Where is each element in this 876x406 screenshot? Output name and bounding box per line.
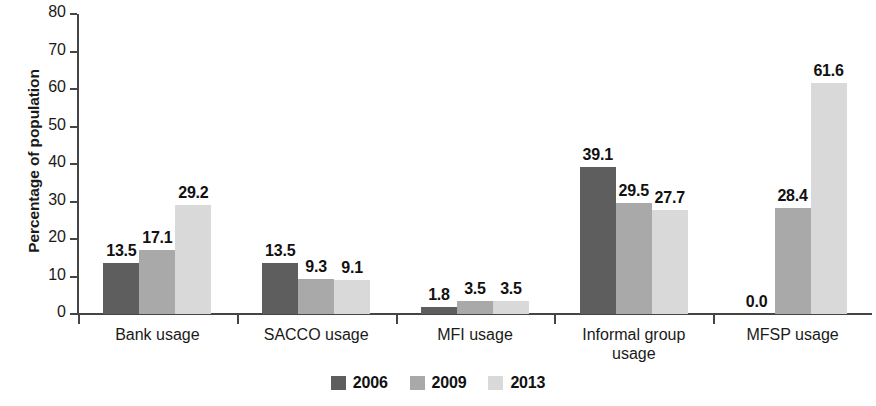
- bar-value-label: 28.4: [777, 187, 807, 205]
- bar-2013[interactable]: 3.5: [493, 14, 529, 314]
- bar-rect: [421, 307, 457, 314]
- y-axis-tick-label: 60: [26, 78, 66, 96]
- bar-group: 13.59.39.1: [237, 14, 396, 314]
- y-axis-tick-mark: [70, 163, 77, 165]
- bar-rect: [262, 263, 298, 314]
- bar-rect: [652, 210, 688, 314]
- bar-rect: [775, 208, 811, 315]
- y-axis-tick-mark: [70, 201, 77, 203]
- bar-rect: [493, 301, 529, 314]
- y-axis-tick-mark: [70, 88, 77, 90]
- x-axis-separator-tick: [554, 315, 556, 324]
- bar-value-label: 17.1: [142, 229, 172, 247]
- x-axis-separator-tick: [237, 315, 239, 324]
- bar-2013[interactable]: 29.2: [175, 14, 211, 314]
- bar-group: 0.028.461.6: [713, 14, 872, 314]
- bar-value-label: 0.0: [746, 293, 768, 311]
- x-axis-separator-tick: [78, 315, 80, 324]
- bar-2009[interactable]: 28.4: [775, 14, 811, 314]
- y-axis-tick-label: 0: [26, 303, 66, 321]
- bar-rect: [298, 279, 334, 314]
- y-axis-tick-label: 10: [26, 266, 66, 284]
- x-axis-category-label: Bank usage: [78, 325, 237, 344]
- bar-value-label: 39.1: [583, 146, 613, 164]
- legend-label: 2009: [432, 374, 467, 392]
- bar-group-bars: 1.83.53.5: [396, 14, 555, 314]
- bar-value-label: 29.2: [178, 184, 208, 202]
- bar-2013[interactable]: 61.6: [811, 14, 847, 314]
- bar-2013[interactable]: 9.1: [334, 14, 370, 314]
- y-axis-tick-mark: [70, 238, 77, 240]
- x-axis-category-label-line: usage: [554, 344, 713, 363]
- x-axis-separator-tick: [396, 315, 398, 324]
- x-axis-category-label-line: MFI usage: [396, 325, 555, 344]
- bar-2006[interactable]: 39.1: [580, 14, 616, 314]
- bar-2006[interactable]: 13.5: [262, 14, 298, 314]
- y-axis-tick-mark: [70, 13, 77, 15]
- legend-swatch-icon: [331, 376, 346, 390]
- bar-rect: [811, 83, 847, 314]
- y-axis-tick-mark: [70, 51, 77, 53]
- bar-rect: [139, 250, 175, 314]
- legend-swatch-icon: [410, 376, 425, 390]
- y-axis-tick-labels: 01020304050607080: [0, 0, 66, 406]
- bar-group-bars: 39.129.527.7: [554, 14, 713, 314]
- bar-2006[interactable]: 1.8: [421, 14, 457, 314]
- bar-value-label: 27.7: [655, 189, 685, 207]
- y-axis-tick-label: 40: [26, 153, 66, 171]
- y-axis-tick-label: 70: [26, 41, 66, 59]
- bar-2009[interactable]: 29.5: [616, 14, 652, 314]
- x-axis-category-label-line: MFSP usage: [713, 325, 872, 344]
- bar-group-bars: 13.517.129.2: [78, 14, 237, 314]
- bar-value-label: 3.5: [500, 280, 522, 298]
- y-axis-tick-label: 20: [26, 228, 66, 246]
- legend-label: 2006: [353, 374, 388, 392]
- bar-value-label: 29.5: [619, 182, 649, 200]
- x-axis-category-label: Informal groupusage: [554, 325, 713, 363]
- bar-2006[interactable]: 13.5: [103, 14, 139, 314]
- legend-label: 2013: [510, 374, 545, 392]
- bar-rect: [175, 205, 211, 315]
- bar-value-label: 9.1: [341, 259, 363, 277]
- bar-rect: [580, 167, 616, 314]
- y-axis-tick-label: 30: [26, 191, 66, 209]
- y-axis-tick-label: 50: [26, 116, 66, 134]
- y-axis-tick-mark: [70, 126, 77, 128]
- bar-2009[interactable]: 17.1: [139, 14, 175, 314]
- bar-chart: Percentage of population 010203040506070…: [0, 0, 876, 406]
- x-axis-category-label: SACCO usage: [237, 325, 396, 344]
- bar-value-label: 3.5: [464, 280, 486, 298]
- bar-rect: [616, 203, 652, 314]
- bar-rect: [457, 301, 493, 314]
- bar-group-bars: 13.59.39.1: [237, 14, 396, 314]
- chart-legend: 200620092013: [0, 374, 876, 392]
- x-axis-category-label-line: Informal group: [554, 325, 713, 344]
- bar-2006[interactable]: 0.0: [739, 14, 775, 314]
- x-axis-category-label-line: Bank usage: [78, 325, 237, 344]
- y-axis-tick-mark: [70, 313, 77, 315]
- bar-group-bars: 0.028.461.6: [713, 14, 872, 314]
- y-axis-tick-mark: [70, 276, 77, 278]
- legend-item-2006[interactable]: 2006: [331, 374, 388, 392]
- x-axis-category-label-line: SACCO usage: [237, 325, 396, 344]
- bar-value-label: 61.6: [813, 62, 843, 80]
- bar-group: 39.129.527.7: [554, 14, 713, 314]
- legend-item-2013[interactable]: 2013: [488, 374, 545, 392]
- legend-swatch-icon: [488, 376, 503, 390]
- bar-value-label: 13.5: [265, 242, 295, 260]
- bar-2009[interactable]: 3.5: [457, 14, 493, 314]
- bar-2013[interactable]: 27.7: [652, 14, 688, 314]
- legend-item-2009[interactable]: 2009: [410, 374, 467, 392]
- plot-area: 13.517.129.213.59.39.11.83.53.539.129.52…: [78, 14, 872, 314]
- x-axis-separator-tick: [713, 315, 715, 324]
- x-axis-category-label: MFSP usage: [713, 325, 872, 344]
- bar-value-label: 9.3: [305, 258, 327, 276]
- bar-value-label: 13.5: [106, 242, 136, 260]
- bar-value-label: 1.8: [428, 286, 450, 304]
- bar-rect: [334, 280, 370, 314]
- bar-group: 13.517.129.2: [78, 14, 237, 314]
- y-axis-tick-label: 80: [26, 3, 66, 21]
- bar-2009[interactable]: 9.3: [298, 14, 334, 314]
- x-axis-category-label: MFI usage: [396, 325, 555, 344]
- bar-rect: [103, 263, 139, 314]
